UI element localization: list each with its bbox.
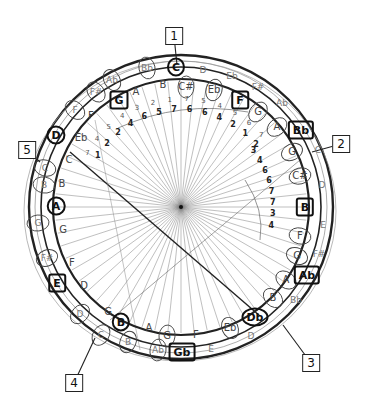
inner-ring-note: C <box>66 155 73 165</box>
outer-ring-note: Eb <box>226 72 237 81</box>
scale-degree: 6 <box>262 165 268 174</box>
scale-degree: 7 <box>269 187 275 196</box>
scale-degree: 5 <box>233 109 237 117</box>
scale-degree: 5 <box>201 97 205 105</box>
inner-ring-note: G <box>163 331 171 341</box>
scale-degree: 7 <box>85 149 89 157</box>
center-point <box>179 205 183 209</box>
outer-ring-note: G <box>35 219 42 228</box>
outer-ring-note: Bb <box>290 296 302 305</box>
outer-ring-note: C <box>315 146 321 155</box>
scale-degree: 2 <box>230 119 236 128</box>
scale-degree: 3 <box>251 146 257 155</box>
inner-ring-note: A <box>283 275 290 285</box>
key-note: C <box>167 58 185 77</box>
scale-degree: 2 <box>115 127 121 136</box>
outer-ring-note: D <box>248 332 255 341</box>
inner-ring-note: G <box>254 107 262 117</box>
outer-ring-note: C <box>98 331 104 340</box>
scale-degree: 2 <box>104 138 110 147</box>
key-note: D <box>46 126 65 145</box>
inner-ring-note: B <box>59 179 66 189</box>
scale-degree: 6 <box>187 105 193 114</box>
outer-ring-note: F# <box>41 254 54 263</box>
inner-ring-note: F <box>193 330 199 340</box>
scale-degree: 4 <box>95 135 99 143</box>
inner-ring-note: Eb <box>208 85 221 95</box>
callout-box-5: 5 <box>18 141 36 159</box>
key-note: F <box>231 91 249 110</box>
scale-degree: 4 <box>217 102 221 110</box>
outer-ring-note: D <box>200 66 207 75</box>
scale-degree: 3 <box>135 104 139 112</box>
callout-box-3: 3 <box>302 354 320 372</box>
outer-ring-note: F# <box>252 83 265 92</box>
callout-box-2: 2 <box>332 135 350 153</box>
outer-ring-note: D <box>319 181 326 190</box>
scale-degree: 6 <box>202 107 208 116</box>
scale-degree: 7 <box>270 198 276 207</box>
inner-ring-note: B <box>270 293 277 303</box>
scale-degree: 6 <box>266 176 272 185</box>
key-note: Gb <box>169 343 196 362</box>
inner-ring-note: F <box>88 111 94 121</box>
key-note: A <box>47 197 66 216</box>
scale-degree: 6 <box>141 112 147 121</box>
inner-ring-note: G <box>104 307 112 317</box>
scale-degree: 2 <box>151 99 155 107</box>
scale-degree: 7 <box>171 105 177 114</box>
outer-ring-note: E <box>208 345 214 354</box>
key-note: B <box>296 198 314 217</box>
outer-ring-note: B <box>41 181 47 190</box>
outer-ring-note: Ab <box>276 99 288 108</box>
key-note: Db <box>241 308 268 327</box>
key-note: Bb <box>288 121 314 140</box>
scale-degree: 4 <box>128 118 134 127</box>
scale-degree: 5 <box>156 107 162 116</box>
inner-ring-note: Eb <box>224 323 237 333</box>
inner-ring-note: F <box>297 231 303 241</box>
inner-ring-note: A <box>133 87 140 97</box>
inner-ring-note: Eb <box>75 133 88 143</box>
scale-degree: 1 <box>95 151 101 160</box>
scale-degree: 7 <box>184 95 188 103</box>
inner-ring-note: A <box>146 323 153 333</box>
outer-ring-note: Ab <box>152 346 164 355</box>
scale-degree: 4 <box>216 112 222 121</box>
inner-ring-note: B <box>160 80 167 90</box>
key-note: Ab <box>294 266 320 285</box>
inner-ring-note: G <box>293 251 301 261</box>
inner-ring-note: G <box>59 225 67 235</box>
key-note: E <box>48 274 66 293</box>
outer-ring-note: D <box>77 310 84 319</box>
scale-degree: 1 <box>167 96 171 104</box>
outer-ring-note: B <box>125 338 131 347</box>
scale-degree: 3 <box>270 209 276 218</box>
outer-ring-note: Bb <box>141 64 153 73</box>
outer-ring-note: F# <box>313 250 326 259</box>
callout-box-4: 4 <box>65 374 83 392</box>
inner-ring-note: D <box>80 281 88 291</box>
inner-ring-note: C# <box>292 171 307 181</box>
scale-degree: 4 <box>257 155 263 164</box>
scale-degree: 6 <box>247 119 251 127</box>
inner-ring-note: G <box>288 147 296 157</box>
scale-degree: 4 <box>269 220 275 229</box>
scale-degree: 1 <box>242 129 248 138</box>
inner-ring-note: A <box>274 122 281 132</box>
scale-degree: 5 <box>106 123 110 131</box>
inner-ring-note: F <box>69 258 75 268</box>
inner-ring-note: C# <box>178 82 193 92</box>
outer-ring-note: E <box>320 221 326 230</box>
callout-box-1: 1 <box>165 27 183 45</box>
outer-ring-note: F# <box>90 88 103 97</box>
key-note: G <box>109 91 128 110</box>
outer-ring-note: C <box>42 164 48 173</box>
scale-degree: 4 <box>120 112 124 120</box>
scale-degree: 7 <box>259 131 263 139</box>
outer-ring-note: F <box>72 106 77 115</box>
outer-ring-note: Ab <box>106 76 118 85</box>
